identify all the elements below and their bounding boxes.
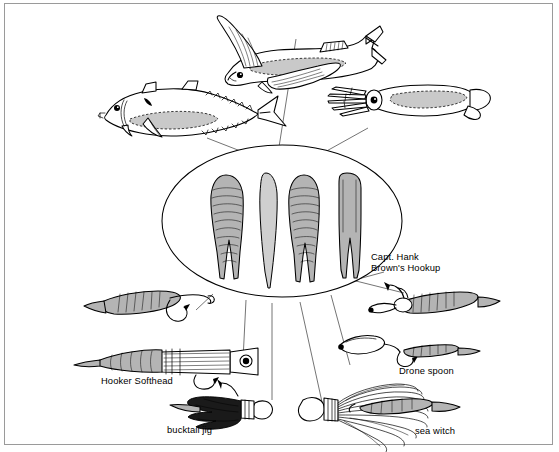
baitfish-squid (328, 85, 490, 119)
baitfish-flying-fish (217, 16, 386, 93)
lure-bucktail-jig (170, 379, 272, 429)
label-sea-witch: sea witch (415, 425, 455, 436)
label-bucktail-jig: bucktail jig (167, 424, 212, 435)
figure-page: .ol { fill:none; stroke:#000; stroke-wid… (0, 0, 559, 452)
lure-diagram-artwork: .ol { fill:none; stroke:#000; stroke-wid… (0, 0, 559, 452)
label-capt-hank-browns-hookup: Capt. Hank Brown's Hookup (371, 251, 440, 274)
baitfish-mackerel (98, 81, 286, 137)
label-drone-spoon: Drone spoon (399, 365, 454, 376)
lure-drone-spoon (338, 335, 480, 366)
lure-rigged-hook (84, 291, 214, 321)
lure-sea-witch (298, 384, 460, 452)
label-hooker-softhead: Hooker Softhead (101, 375, 173, 386)
center-oval-group (162, 145, 402, 297)
lure-hookup (368, 282, 500, 313)
